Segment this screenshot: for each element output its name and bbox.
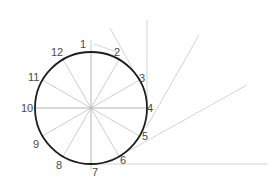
radial-spoke-9 xyxy=(43,108,92,136)
point-label-1: 1 xyxy=(80,38,86,50)
point-label-2: 2 xyxy=(114,46,120,58)
construction-line xyxy=(125,85,247,153)
point-label-10: 10 xyxy=(21,102,33,114)
construction-line xyxy=(146,35,199,128)
point-label-9: 9 xyxy=(33,138,39,150)
radial-spoke-11 xyxy=(43,80,92,108)
point-label-4: 4 xyxy=(147,102,153,114)
radial-spoke-8 xyxy=(63,108,91,157)
circle-division-diagram: 123456789101112 xyxy=(0,0,276,184)
axis-lines xyxy=(27,40,150,170)
radial-spoke-3 xyxy=(91,80,140,108)
radial-spoke-2 xyxy=(91,60,119,109)
point-label-5: 5 xyxy=(142,130,148,142)
point-label-12: 12 xyxy=(51,46,63,58)
point-label-3: 3 xyxy=(139,72,145,84)
point-label-7: 7 xyxy=(92,166,98,178)
radial-spoke-6 xyxy=(91,108,119,157)
point-label-8: 8 xyxy=(56,159,62,171)
center-point xyxy=(89,106,92,109)
point-label-6: 6 xyxy=(120,154,126,166)
radial-spoke-12 xyxy=(63,60,91,109)
point-label-11: 11 xyxy=(28,71,39,83)
radial-spoke-5 xyxy=(91,108,140,136)
